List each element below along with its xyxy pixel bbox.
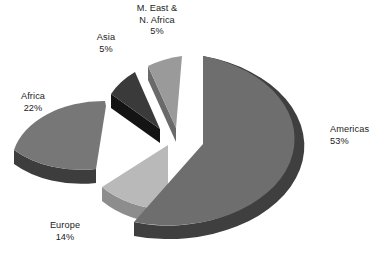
pie-chart: Americas 53% Africa 22% Europe 14% Asia … xyxy=(0,0,391,264)
pie-label-europe: Europe 14% xyxy=(32,220,98,243)
pie-label-africa-value: 22% xyxy=(2,103,64,115)
pie-label-americas: Americas 53% xyxy=(330,124,390,147)
pie-label-meast-name-line1: M. East & xyxy=(112,3,202,15)
pie-label-africa-name: Africa xyxy=(2,91,64,103)
pie-label-americas-value: 53% xyxy=(330,136,390,148)
pie-label-europe-value: 14% xyxy=(32,232,98,244)
pie-label-middle-east-north-africa: M. East & N. Africa 5% xyxy=(112,3,202,38)
pie-label-africa: Africa 22% xyxy=(2,91,64,114)
pie-label-asia-value: 5% xyxy=(78,44,134,56)
pie-label-europe-name: Europe xyxy=(32,220,98,232)
pie-label-americas-name: Americas xyxy=(330,124,390,136)
pie-label-meast-value: 5% xyxy=(112,26,202,38)
pie-label-meast-name-line2: N. Africa xyxy=(112,15,202,27)
